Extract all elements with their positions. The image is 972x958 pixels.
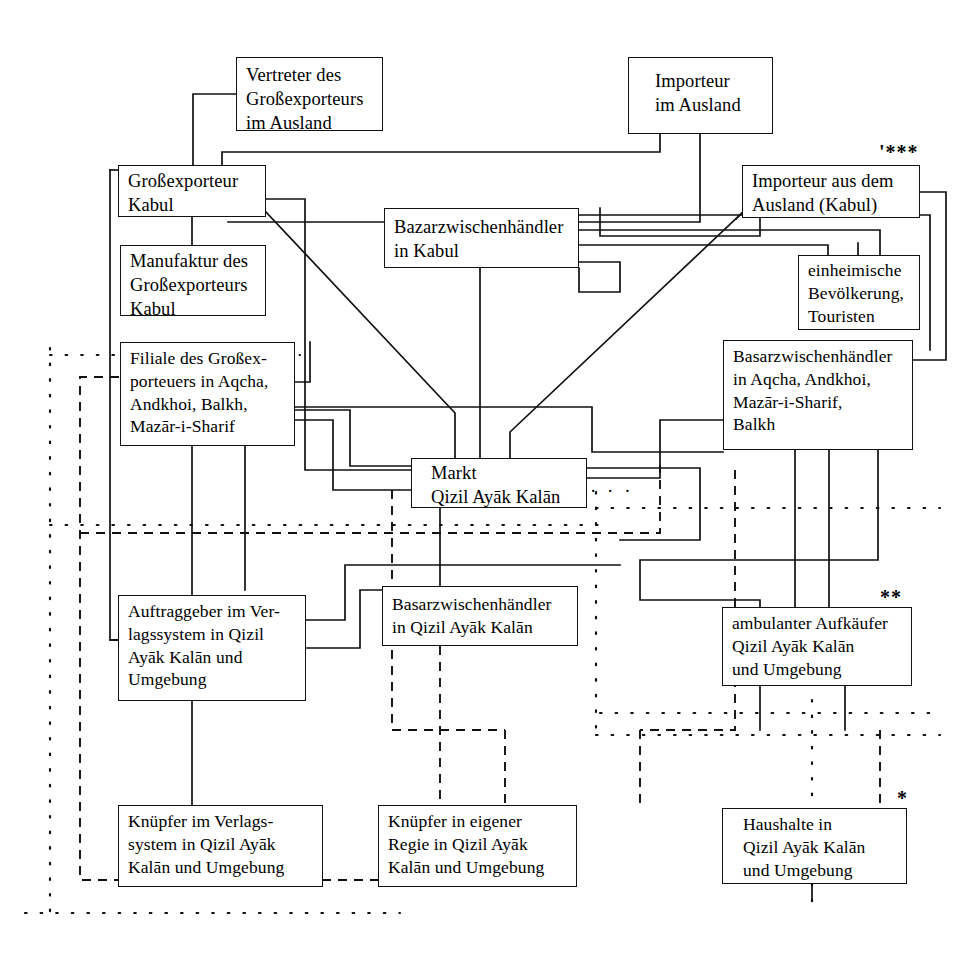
node-line: Umgebung (128, 668, 297, 691)
node-line: Großexporteur (128, 169, 257, 193)
node-line: Markt (431, 461, 578, 485)
node-vertreter[interactable]: Vertreter des Großexporteurs im Ausland (236, 57, 383, 131)
node-line: Basarzwischenhändler (392, 593, 569, 616)
node-line: Importeur (655, 69, 764, 93)
node-line: Importeur aus dem (752, 169, 911, 193)
node-line: Manufaktur des (130, 249, 257, 273)
node-line: Haushalte in (743, 813, 898, 836)
node-line: einheimische (808, 259, 911, 282)
node-line: Qizil Ayāk Kalān (743, 836, 898, 859)
node-line: Auftraggeber im Ver- (128, 600, 297, 623)
node-einheimische-bevoelkerung[interactable]: einheimische Bevölkerung, Touristen (798, 255, 920, 330)
node-line: Bazarzwischenhändler (394, 215, 570, 239)
footnote-mark-three-stars: '*** (879, 141, 919, 164)
node-line: Touristen (808, 305, 911, 328)
node-line: porteuers in Aqcha, (130, 370, 286, 393)
node-line: im Ausland (655, 93, 764, 117)
node-line: Andkhoi, Balkh, (130, 393, 286, 416)
node-line: lagssystem in Qizil (128, 623, 297, 646)
node-line: Kalān und Umgebung (388, 856, 568, 879)
node-line: Balkh (733, 413, 904, 436)
node-line: Qizil Ayāk Kalān (732, 635, 903, 658)
node-line: in Qizil Ayāk Kalān (392, 616, 569, 639)
node-line: und Umgebung (743, 859, 898, 882)
node-line: ambulanter Aufkäufer (732, 612, 903, 635)
node-filiale-grossexporteur[interactable]: Filiale des Großex- porteuers in Aqcha, … (120, 342, 295, 446)
node-auftraggeber-verlagssystem[interactable]: Auftraggeber im Ver- lagssystem in Qizil… (118, 595, 306, 701)
node-line: Mazār-i-Sharif, (733, 391, 904, 414)
node-line: Knüpfer im Verlags- (128, 810, 314, 833)
node-basarzwischenhaendler-aqcha[interactable]: Basarzwischenhändler in Aqcha, Andkhoi, … (723, 340, 913, 450)
node-line: Knüpfer in eigener (388, 810, 568, 833)
node-grossexporteur-kabul[interactable]: Großexporteur Kabul (118, 165, 266, 217)
node-line: Mazār-i-Sharif (130, 415, 286, 438)
marketing-channel-diagram: Vertreter des Großexporteurs im Ausland … (0, 0, 972, 958)
node-haushalte[interactable]: Haushalte in Qizil Ayāk Kalān und Umgebu… (722, 808, 907, 884)
node-manufaktur[interactable]: Manufaktur des Großexporteurs Kabul (120, 245, 266, 316)
node-bazarzwischenhaendler-kabul[interactable]: Bazarzwischenhändler in Kabul (384, 208, 579, 268)
node-line: Kabul (128, 193, 257, 217)
node-line: Vertreter des (246, 63, 374, 87)
node-basarzwischenhaendler-qizil[interactable]: Basarzwischenhändler in Qizil Ayāk Kalān (382, 586, 578, 646)
floating-dots-markt-right: · · · (590, 480, 633, 502)
node-line: system in Qizil Ayāk (128, 833, 314, 856)
node-line: in Kabul (394, 239, 570, 263)
footnote-mark-two-stars: ** (880, 586, 902, 609)
node-line: Großexporteurs (246, 87, 374, 111)
node-knuepfer-verlagssystem[interactable]: Knüpfer im Verlags- system in Qizil Ayāk… (118, 805, 323, 887)
node-markt-qizil-ayak-kalan[interactable]: Markt Qizil Ayāk Kalān (411, 458, 587, 508)
node-importeur-ausland[interactable]: Importeur im Ausland (628, 57, 773, 134)
node-line: Regie in Qizil Ayāk (388, 833, 568, 856)
node-line: Ausland (Kabul) (752, 193, 911, 217)
node-line: Filiale des Großex- (130, 347, 286, 370)
node-line: Bevölkerung, (808, 282, 911, 305)
node-line: im Ausland (246, 111, 374, 135)
node-line: und Umgebung (732, 658, 903, 681)
node-line: Kabul (130, 297, 257, 321)
node-line: in Aqcha, Andkhoi, (733, 368, 904, 391)
node-line: Großexporteurs (130, 273, 257, 297)
node-line: Kalān und Umgebung (128, 856, 314, 879)
node-importeur-aus-dem-ausland-kabul[interactable]: Importeur aus dem Ausland (Kabul) (742, 165, 920, 218)
node-ambulanter-aufkaeufer[interactable]: ambulanter Aufkäufer Qizil Ayāk Kalān un… (722, 607, 912, 686)
node-line: Qizil Ayāk Kalān (431, 485, 578, 509)
footnote-mark-one-star: * (897, 787, 908, 810)
node-knuepfer-eigener-regie[interactable]: Knüpfer in eigener Regie in Qizil Ayāk K… (378, 805, 577, 887)
node-line: Ayāk Kalān und (128, 646, 297, 669)
node-line: Basarzwischenhändler (733, 345, 904, 368)
